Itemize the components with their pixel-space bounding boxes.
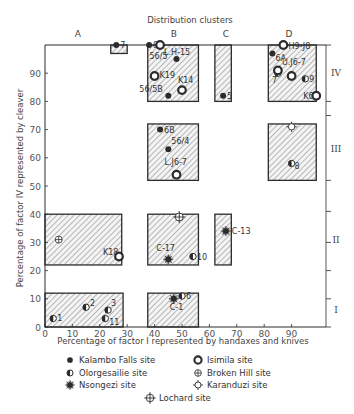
filled-circle-icon [113,42,119,48]
legend-label: Nsongezi site [79,380,136,390]
filled-circle-icon [174,56,180,62]
y-tick-label: 40 [30,210,42,220]
column-cluster-label: B [171,29,177,39]
y-tick-label: 10 [30,294,42,304]
point-label: K6 [303,92,313,101]
legend-label: Kalambo Falls site [79,355,155,365]
open-circle-icon [288,72,296,80]
starburst-icon [221,226,231,236]
legend: Kalambo Falls siteOlorgesailie siteNsong… [65,355,271,404]
point-label: 2 [90,299,95,308]
filled-circle-icon [146,42,152,48]
point-label: K14 [178,76,193,85]
scatter-chart: Distribution clusters 010203040506070809… [0,0,354,414]
cluster-box [215,214,231,265]
cluster-box [268,124,316,180]
data-point: 10 [190,253,207,262]
filled-circle-icon [157,127,163,133]
point-label: C-1 [170,303,184,312]
point-label: C-13 [232,227,251,236]
point-label: K19 [160,71,175,80]
point-label: C-17 [156,244,175,253]
y-tick-label: 30 [30,238,42,248]
row-cluster-label: II [332,235,340,245]
filled-circle-icon [165,93,171,99]
legend-item: Lochard site [144,392,211,403]
point-label: 10 [197,253,207,262]
half-circle-icon [50,315,56,321]
data-point: H9-J8 [280,41,311,51]
open-circle-icon [151,72,159,80]
open-circle-icon [178,86,186,94]
point-label: 56/4 [171,137,189,146]
data-point: K6 [303,92,320,101]
x-tick-label: 0 [42,329,48,339]
legend-label: Broken Hill site [207,368,271,378]
y-tick-label: 90 [30,69,42,79]
open-circle-icon [274,67,282,75]
data-point: K19 [151,71,175,80]
row-cluster-label: I [334,305,338,315]
column-cluster-label: C [223,29,229,39]
legend-item: Broken Hill site [195,368,271,378]
point-label: 7 [120,41,125,50]
legend-item: Isimila site [194,355,252,365]
x-axis-title: Percentage of factor I represented by ha… [57,336,309,346]
y-tick-label: 20 [30,266,42,276]
starburst-icon [65,380,75,390]
data-point: C-13 [221,226,251,236]
point-label: H9-J8 [288,42,310,51]
point-label: U.J6-7 [282,58,306,67]
column-cluster-label: A [75,29,82,39]
legend-item: Karanduzi site [193,380,267,390]
point-label: 9 [309,75,314,84]
column-cluster-label: D [285,29,292,39]
y-tick-label: 80 [30,97,42,107]
legend-item: Kalambo Falls site [67,355,155,365]
legend-label: Olorgesailie site [79,368,147,378]
point-label: 1 [57,314,62,323]
y-tick-label: 0 [35,323,41,333]
half-circle-icon [67,370,73,376]
legend-label: Karanduzi site [207,380,267,390]
half-circle-icon [190,253,196,259]
point-label: 5 [227,92,232,101]
half-circle-icon [102,315,108,321]
y-tick-label: 60 [30,153,42,163]
half-circle-icon [83,304,89,310]
open-circle-icon [194,356,201,363]
point-label: 3 [111,299,116,308]
filled-circle-icon [67,357,73,363]
y-axis-title: Percentage of factor IV represented by c… [15,88,25,287]
row-cluster-label: IV [331,68,342,78]
point-label: 6B [164,126,175,135]
filled-circle-icon [165,146,171,152]
legend-item: Nsongezi site [65,380,136,390]
point-label: L.J6-7 [165,158,187,167]
chart-title: Distribution clusters [147,15,233,25]
legend-item: Olorgesailie site [67,368,147,378]
circle-plus-icon [195,370,202,377]
open-circle-icon [156,41,164,49]
point-label: 7 [272,76,277,85]
half-circle-icon [179,293,185,299]
y-tick-label: 50 [30,182,42,192]
legend-label: Isimila site [207,355,253,365]
open-circle-icon [173,171,181,179]
row-cluster-label: III [331,144,342,154]
data-point [55,236,62,243]
crosshair-icon [144,392,155,403]
legend-label: Lochard site [159,393,211,403]
y-tick-label: 70 [30,125,42,135]
filled-circle-icon [220,93,226,99]
starburst-icon [163,254,173,264]
point-label: 8 [295,162,300,171]
open-circle-icon [280,41,288,49]
point-label: 6 [186,292,191,301]
point-label: K18 [103,248,118,257]
data-point [288,72,296,80]
point-label: 11 [109,318,119,327]
open-diamond-circle-icon [193,380,203,390]
circle-plus-icon [55,236,62,243]
point-label: L.H-15 [164,48,190,57]
